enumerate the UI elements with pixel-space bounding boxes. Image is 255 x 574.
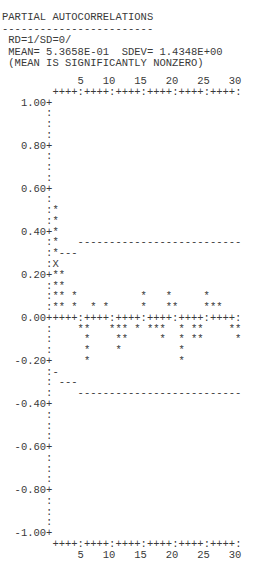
plot-row: : <box>2 464 241 475</box>
y-axis-label: 0.20 <box>2 270 46 281</box>
partial-autocorrelation-output: PARTIAL AUTOCORRELATIONS ---------------… <box>0 0 255 574</box>
y-axis-label: 0.00 <box>2 313 46 324</box>
plot-row: -0.20+ * * <box>2 356 241 367</box>
y-axis-label <box>2 453 46 464</box>
zero-axis-line: ++++:++++:++++:++++:++++:++++: <box>52 313 241 324</box>
x-tick-label: 10 <box>84 550 116 561</box>
y-axis-label <box>2 334 46 345</box>
x-axis-top: ++++:++++:++++:++++:++++:++++: <box>2 87 241 98</box>
confidence-line: -------------------------- <box>52 388 241 399</box>
y-axis-label: -1.00 <box>2 528 46 539</box>
plot-row: -0.40+ <box>2 399 241 410</box>
mean-significance-note: (MEAN IS SIGNIFICANTLY NONZERO) <box>2 58 223 70</box>
y-axis-label: 0.40 <box>2 227 46 238</box>
plot-row: : <box>2 194 241 205</box>
y-axis-label: 0.80 <box>2 141 46 152</box>
plot-row: : <box>2 410 241 421</box>
plot-row-upper-limit: :*--- <box>2 248 241 259</box>
y-axis-label: 1.00 <box>2 98 46 109</box>
plot-row-lower-limit: :- <box>2 367 241 378</box>
plot-row: 1.00+ <box>2 98 241 109</box>
plot-row: : <box>2 119 241 130</box>
x-tick-label: 5 <box>52 550 84 561</box>
y-axis-label <box>2 151 46 162</box>
y-axis-label <box>2 130 46 141</box>
plot-row-upper-limit: :* -------------------------- <box>2 237 241 248</box>
y-axis-label <box>2 281 46 292</box>
y-axis-label <box>2 507 46 518</box>
zero-axis-row: 0.00+++++:++++:++++:++++:++++:++++: <box>2 313 241 324</box>
y-axis-label <box>2 205 46 216</box>
pacf-ascii-plot: 51015202530 ++++:++++:++++:++++:++++:+++… <box>2 76 241 560</box>
y-axis-label <box>2 108 46 119</box>
y-axis-mark: : <box>46 453 52 464</box>
y-axis-label <box>2 464 46 475</box>
x-axis-tick-labels-bottom: 51015202530 <box>2 550 241 561</box>
y-axis-label <box>2 291 46 302</box>
x-axis-line: ++++:++++:++++:++++:++++:++++: <box>52 87 241 98</box>
x-tick-label: 30 <box>210 550 242 561</box>
bar-marks: ** <box>52 270 65 281</box>
y-axis-label <box>2 410 46 421</box>
report-header: PARTIAL AUTOCORRELATIONS ---------------… <box>2 12 223 70</box>
y-axis-label: -0.20 <box>2 356 46 367</box>
y-axis-label: -0.60 <box>2 442 46 453</box>
x-tick-label: 15 <box>115 550 147 561</box>
y-axis-label <box>2 367 46 378</box>
y-axis-label: -0.80 <box>2 485 46 496</box>
y-axis-label: -0.40 <box>2 399 46 410</box>
plot-row: -0.80+ <box>2 485 241 496</box>
model-parameters: RD=1/SD=0/ <box>2 35 223 47</box>
plot-row: 0.20+** <box>2 270 241 281</box>
plot-row: : <box>2 162 241 173</box>
plot-row: -0.60+ <box>2 442 241 453</box>
plot-row: 0.60+ <box>2 184 241 195</box>
bar-marks: * * <box>52 356 184 367</box>
plot-row: : <box>2 130 241 141</box>
y-axis-label <box>2 248 46 259</box>
x-tick-label: 25 <box>178 550 210 561</box>
plot-row: : <box>2 151 241 162</box>
bar-marks-confidence-line: * -------------------------- <box>52 237 241 248</box>
plot-row: : <box>2 507 241 518</box>
plot-row: 0.80+ <box>2 141 241 152</box>
plot-row: :* <box>2 205 241 216</box>
y-axis-mark: : <box>46 496 52 507</box>
y-axis-label <box>2 377 46 388</box>
y-axis-mark: : <box>46 130 52 141</box>
report-title: PARTIAL AUTOCORRELATIONS <box>2 12 223 24</box>
x-tick-label: 20 <box>147 550 179 561</box>
y-axis-label <box>2 421 46 432</box>
plot-row: : <box>2 496 241 507</box>
plot-row: : <box>2 453 241 464</box>
plot-row: : <box>2 108 241 119</box>
y-axis-label <box>2 237 46 248</box>
y-axis-label <box>2 162 46 173</box>
y-axis-label <box>2 324 46 335</box>
y-axis-label <box>2 194 46 205</box>
y-axis-label <box>2 119 46 130</box>
y-axis-label <box>2 496 46 507</box>
plot-row: : <box>2 421 241 432</box>
y-axis-mark: : <box>46 410 52 421</box>
y-axis-label: 0.60 <box>2 184 46 195</box>
